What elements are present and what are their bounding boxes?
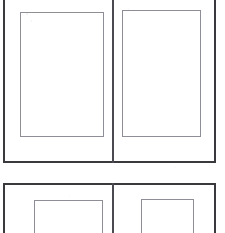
album-spread-lower	[0, 183, 225, 233]
photo-mount-upper-left	[20, 12, 104, 137]
photo-mount-lower-left	[34, 200, 103, 233]
photo-mount-lower-right	[141, 199, 194, 233]
album-spread-upper	[0, 0, 225, 163]
spread-divider-upper	[112, 0, 114, 163]
scanned-page-canvas: Two stacked album page spreads, each rul…	[0, 0, 225, 233]
photo-mount-upper-right	[122, 10, 201, 137]
spread-gutter	[0, 163, 225, 183]
spread-divider-lower	[112, 183, 114, 233]
